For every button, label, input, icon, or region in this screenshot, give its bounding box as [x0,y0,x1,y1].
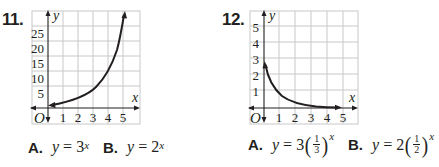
right-paren: ) [322,135,328,155]
x-axis-label: x [131,90,139,105]
problem-number: 11. [2,10,23,30]
equals: = [283,136,292,154]
y-tick: 10 [31,71,44,86]
x-tick: 3 [308,110,315,125]
fraction: 13 [313,134,320,155]
numerator: 1 [314,134,319,144]
choice-b[interactable]: B. y = 2x [103,138,164,156]
right-paren: ) [422,135,428,155]
equals: = [138,138,147,156]
y-tick: 5 [253,20,260,35]
lhs: y [272,136,279,154]
x-tick: 5 [120,110,127,125]
exponent: x [429,130,434,142]
exponent: x [159,139,164,151]
y-tick: 2 [253,68,260,83]
origin-label: O [250,110,261,126]
y-tick: 20 [31,41,44,56]
y-tick: 1 [253,84,260,99]
origin-label: O [34,110,45,126]
equation: y = 2(12)x [372,134,434,155]
coefficient: 2 [396,136,404,154]
problem-number: 12. [222,10,244,30]
x-tick: 4 [105,110,112,125]
y-tick: 3 [253,52,260,67]
lhs: y [372,136,379,154]
equation: y = 3(13)x [272,134,334,155]
lhs: y [52,138,59,156]
base: 2 [151,138,159,156]
choice-a[interactable]: A. y = 3x [28,138,89,156]
exponent: x [329,130,334,142]
choice-letter: A. [28,139,43,156]
x-tick: 2 [292,110,299,125]
equals: = [383,136,392,154]
equation: y = 3x [52,138,89,156]
x-tick: 2 [75,110,82,125]
x-tick: 3 [90,110,97,125]
denominator: 2 [414,145,419,155]
graph-12: y x O 1 2 3 4 5 1 2 3 4 5 [246,5,361,125]
x-tick: 5 [340,110,347,125]
y-tick: 5 [38,86,45,101]
x-tick: 4 [324,110,331,125]
choice-letter: B. [103,139,118,156]
y-tick: 15 [31,56,44,71]
y-tick: 4 [253,36,260,51]
y-axis-label: y [51,8,60,23]
y-tick: 25 [31,26,44,41]
answer-choices: A. y = 3x B. y = 2x [28,138,178,156]
base: 3 [76,138,84,156]
equals: = [63,138,72,156]
left-paren: ( [405,135,411,155]
numerator: 1 [414,134,419,144]
choice-b[interactable]: B. y = 2(12)x [348,134,434,155]
choice-letter: A. [248,136,263,153]
exponent: x [84,139,89,151]
denominator: 3 [314,145,319,155]
x-axis-label: x [348,90,356,105]
y-axis-label: y [267,8,276,23]
left-paren: ( [305,135,311,155]
graph-11: y x O 5 10 15 20 25 1 2 3 4 5 [28,5,143,125]
fraction: 12 [413,134,420,155]
equation: y = 2x [127,138,164,156]
choice-a[interactable]: A. y = 3(13)x [248,134,334,155]
x-tick: 1 [60,110,67,125]
answer-choices: A. y = 3(13)x B. y = 2(12)x [248,134,439,155]
coefficient: 3 [296,136,304,154]
x-tick: 1 [276,110,283,125]
lhs: y [127,138,134,156]
choice-letter: B. [348,136,363,153]
